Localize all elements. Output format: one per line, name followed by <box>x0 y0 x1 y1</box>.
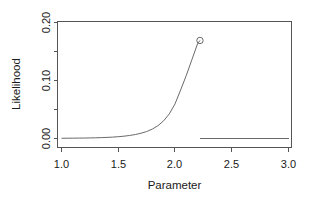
x-axis-tick-labels: 1.0 1.5 2.0 2.5 3.0 <box>54 158 296 170</box>
y-tick-label-0.20: 0.20 <box>40 12 52 33</box>
y-tick-label-0.10: 0.10 <box>40 70 52 91</box>
x-tick-label-2.5: 2.5 <box>224 158 239 170</box>
likelihood-curve <box>62 40 200 138</box>
likelihood-plot: 0.00 0.10 0.20 Likelihood 1.0 1.5 2.0 2.… <box>0 0 313 205</box>
x-tick-label-2.0: 2.0 <box>167 158 182 170</box>
x-tick-label-1.5: 1.5 <box>111 158 126 170</box>
y-tick-label-0.00: 0.00 <box>40 128 52 149</box>
x-axis-ticks <box>62 148 289 152</box>
x-tick-label-1.0: 1.0 <box>54 158 69 170</box>
data-layer <box>62 37 289 138</box>
x-axis-title: Parameter <box>148 179 202 191</box>
chart-figure: 0.00 0.10 0.20 Likelihood 1.0 1.5 2.0 2.… <box>0 0 313 205</box>
y-axis-title: Likelihood <box>10 58 22 110</box>
x-tick-label-3.0: 3.0 <box>281 158 296 170</box>
y-axis-ticks <box>54 23 58 139</box>
y-axis-tick-labels: 0.00 0.10 0.20 <box>40 12 52 149</box>
plot-frame <box>58 22 292 148</box>
